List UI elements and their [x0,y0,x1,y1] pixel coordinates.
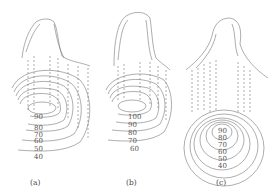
panel-c-caption: (c) [216,178,226,187]
panel-a-contour-90: 90 [34,114,43,121]
panel-a-contour-50: 50 [34,146,43,153]
panel-b-contour-60: 60 [130,146,139,153]
panel-a-contour-60: 60 [34,138,43,145]
panel-a-body [22,19,90,138]
panel-b-contour-90: 90 [128,122,137,129]
panel-b-contour-80: 80 [128,130,137,137]
panel-a-contour-40: 40 [34,154,43,161]
panel-b-contour-70: 70 [128,138,137,145]
panel-b-contour-100: 100 [128,114,141,121]
panel-c-contour-40: 40 [218,163,227,170]
diagram-canvas [0,0,278,194]
panel-b-contours [106,74,172,141]
panel-b-caption: (b) [126,178,137,187]
panel-c-body [186,18,268,112]
panel-b-body [114,12,170,120]
panel-a-caption: (a) [30,178,40,187]
